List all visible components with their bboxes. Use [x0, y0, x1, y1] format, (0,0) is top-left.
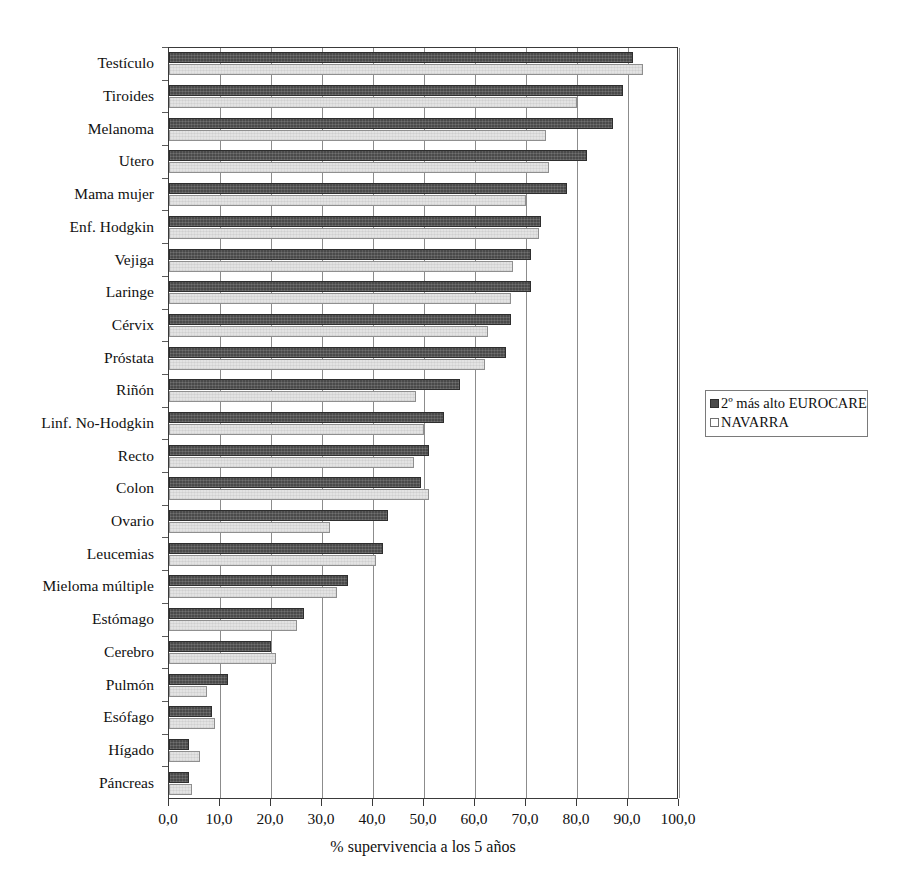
bar	[169, 751, 200, 762]
bar	[169, 347, 506, 358]
y-axis-category-labels: TestículoTiroidesMelanomaUteroMama mujer…	[0, 47, 162, 799]
y-axis-label: Cerebro	[104, 644, 154, 660]
y-tick	[162, 472, 168, 473]
bar	[169, 686, 207, 697]
bar	[169, 653, 276, 664]
bar	[169, 412, 444, 423]
y-tick	[162, 80, 168, 81]
y-tick	[162, 210, 168, 211]
bar	[169, 379, 460, 390]
y-tick	[162, 766, 168, 767]
bar	[169, 620, 297, 631]
bar	[169, 52, 633, 63]
y-axis-label: Mama mujer	[74, 186, 154, 202]
y-axis-label: Esófago	[103, 709, 154, 725]
legend-label-eurocare: 2º más alto EUROCARE	[721, 394, 867, 413]
x-axis-tick-labels: 0,010,020,030,040,050,060,070,080,090,01…	[0, 810, 918, 832]
y-tick	[162, 603, 168, 604]
bar	[169, 555, 376, 566]
y-axis-label: Estómago	[92, 611, 154, 627]
bar	[169, 183, 567, 194]
bars-layer	[169, 48, 677, 798]
bar	[169, 97, 577, 108]
bar	[169, 85, 623, 96]
bar	[169, 522, 330, 533]
survival-bar-chart-figure: TestículoTiroidesMelanomaUteroMama mujer…	[0, 0, 918, 888]
y-axis-label: Pulmón	[106, 677, 154, 693]
y-axis-label: Mieloma múltiple	[43, 578, 155, 594]
bar	[169, 784, 192, 795]
bar	[169, 575, 348, 586]
x-tick	[321, 799, 322, 806]
y-axis-label: Laringe	[106, 284, 154, 300]
y-tick	[162, 439, 168, 440]
bar	[169, 706, 212, 717]
bar	[169, 216, 541, 227]
y-axis-label: Linf. No-Hodgkin	[41, 415, 154, 431]
legend-item-eurocare: 2º más alto EUROCARE	[710, 394, 863, 413]
bar	[169, 130, 546, 141]
bar	[169, 739, 189, 750]
y-tick	[162, 537, 168, 538]
bar	[169, 489, 429, 500]
y-axis-label: Leucemias	[87, 546, 154, 562]
y-axis-label: Riñón	[116, 382, 154, 398]
bar	[169, 118, 613, 129]
bar	[169, 445, 429, 456]
y-axis-label: Utero	[119, 153, 154, 169]
y-axis-label: Cérvix	[112, 317, 154, 333]
y-tick	[162, 145, 168, 146]
x-tick-label: 100,0	[643, 810, 713, 828]
plot-area	[168, 47, 678, 799]
legend-item-navarra: NAVARRA	[710, 413, 863, 432]
y-tick	[162, 505, 168, 506]
y-tick	[162, 243, 168, 244]
bar	[169, 674, 228, 685]
bar	[169, 457, 414, 468]
y-tick	[162, 178, 168, 179]
bar	[169, 641, 271, 652]
y-axis-label: Recto	[118, 448, 154, 464]
y-tick	[162, 374, 168, 375]
y-axis-label: Hígado	[108, 742, 154, 758]
gridline	[679, 48, 680, 798]
bar	[169, 281, 531, 292]
y-tick	[162, 407, 168, 408]
bar	[169, 228, 539, 239]
x-tick	[474, 799, 475, 806]
y-tick	[162, 309, 168, 310]
bar	[169, 326, 488, 337]
y-tick	[162, 341, 168, 342]
y-axis-label: Próstata	[104, 350, 154, 366]
bar	[169, 64, 643, 75]
y-axis-label: Testículo	[97, 55, 154, 71]
legend-label-navarra: NAVARRA	[721, 413, 789, 432]
y-tick	[162, 112, 168, 113]
y-axis-label: Ovario	[111, 513, 154, 529]
bar	[169, 195, 526, 206]
bar	[169, 314, 511, 325]
y-axis-label: Melanoma	[88, 121, 154, 137]
chart-legend: 2º más alto EUROCARE NAVARRA	[705, 390, 868, 437]
y-tick	[162, 47, 168, 48]
y-axis-label: Tiroides	[103, 88, 154, 104]
x-tick	[627, 799, 628, 806]
x-tick	[525, 799, 526, 806]
y-tick	[162, 636, 168, 637]
y-axis-label: Colon	[116, 480, 154, 496]
legend-swatch-light-icon	[710, 418, 719, 427]
bar	[169, 477, 421, 488]
bar	[169, 359, 485, 370]
bar	[169, 261, 513, 272]
bar	[169, 249, 531, 260]
bar	[169, 718, 215, 729]
y-tick	[162, 701, 168, 702]
x-tick	[168, 799, 169, 806]
y-axis-label: Vejiga	[114, 252, 154, 268]
bar	[169, 150, 587, 161]
y-tick	[162, 668, 168, 669]
y-tick	[162, 276, 168, 277]
bar	[169, 772, 189, 783]
x-tick	[219, 799, 220, 806]
x-tick	[423, 799, 424, 806]
